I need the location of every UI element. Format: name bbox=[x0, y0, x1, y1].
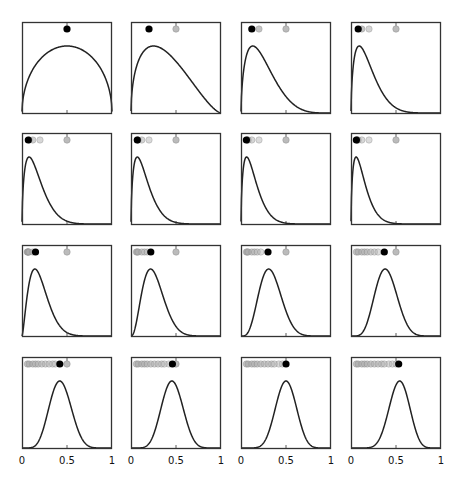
current-estimate-dot bbox=[147, 248, 154, 255]
pdf-curve bbox=[351, 46, 441, 113]
beta-panel-9 bbox=[22, 245, 112, 337]
panel-frame bbox=[352, 134, 441, 225]
history-dot bbox=[37, 137, 43, 143]
x-tick-05-col2: 0.5 bbox=[168, 455, 184, 466]
panel-frame bbox=[23, 134, 112, 225]
reference-dot bbox=[173, 249, 179, 255]
current-estimate-dot bbox=[145, 25, 152, 32]
current-estimate-dot bbox=[248, 25, 255, 32]
history-dot bbox=[258, 249, 264, 255]
panel-frame bbox=[23, 358, 112, 449]
pdf-curve bbox=[351, 269, 441, 336]
reference-dot bbox=[393, 26, 399, 32]
x-tick-0-col4: 0 bbox=[348, 455, 354, 466]
history-dot bbox=[366, 137, 372, 143]
current-estimate-dot bbox=[381, 248, 388, 255]
beta-panel-10 bbox=[131, 245, 221, 337]
pdf-curve bbox=[241, 381, 331, 448]
panel-frame bbox=[242, 358, 331, 449]
reference-dot bbox=[64, 361, 70, 367]
reference-dot bbox=[64, 137, 70, 143]
x-tick-05-col3: 0.5 bbox=[278, 455, 294, 466]
current-estimate-dot bbox=[282, 360, 289, 367]
x-tick-1-col3: 1 bbox=[328, 455, 334, 466]
pdf-curve bbox=[131, 157, 221, 224]
x-tick-1-col4: 1 bbox=[438, 455, 444, 466]
x-tick-0-col1: 0 bbox=[19, 455, 25, 466]
history-dot bbox=[146, 137, 152, 143]
panel-frame bbox=[132, 246, 221, 337]
pdf-curve bbox=[131, 269, 221, 336]
pdf-curve bbox=[22, 46, 112, 112]
reference-dot bbox=[393, 249, 399, 255]
beta-panel-13 bbox=[22, 357, 112, 449]
reference-dot bbox=[393, 137, 399, 143]
pdf-curve bbox=[22, 157, 112, 224]
current-estimate-dot bbox=[56, 360, 63, 367]
beta-panel-6 bbox=[131, 133, 221, 225]
current-estimate-dot bbox=[395, 360, 402, 367]
x-tick-05-col1: 0.5 bbox=[59, 455, 75, 466]
reference-dot bbox=[173, 26, 179, 32]
x-tick-1-col2: 1 bbox=[218, 455, 224, 466]
beta-panel-14 bbox=[131, 357, 221, 449]
panel-frame bbox=[242, 246, 331, 337]
current-estimate-dot bbox=[63, 25, 70, 32]
reference-dot bbox=[64, 249, 70, 255]
pdf-curve bbox=[131, 381, 221, 448]
panel-frame bbox=[23, 246, 112, 337]
pdf-curve bbox=[22, 381, 112, 448]
small-multiples-grid bbox=[0, 0, 464, 486]
beta-panel-15 bbox=[241, 357, 331, 449]
x-tick-05-col4: 0.5 bbox=[388, 455, 404, 466]
beta-panel-3 bbox=[241, 22, 331, 114]
panel-frame bbox=[132, 23, 221, 114]
x-tick-1-col1: 1 bbox=[109, 455, 115, 466]
pdf-curve bbox=[131, 46, 221, 113]
pdf-curve bbox=[351, 157, 441, 224]
beta-panel-12 bbox=[351, 245, 441, 337]
pdf-curve bbox=[241, 269, 331, 336]
x-tick-0-col3: 0 bbox=[238, 455, 244, 466]
beta-panel-2 bbox=[131, 22, 221, 114]
beta-panel-8 bbox=[351, 133, 441, 225]
current-estimate-dot bbox=[355, 25, 362, 32]
pdf-curve bbox=[241, 46, 331, 113]
current-estimate-dot bbox=[25, 136, 32, 143]
current-estimate-dot bbox=[264, 248, 271, 255]
reference-dot bbox=[283, 249, 289, 255]
current-estimate-dot bbox=[169, 360, 176, 367]
current-estimate-dot bbox=[32, 248, 39, 255]
history-dot bbox=[366, 26, 372, 32]
pdf-curve bbox=[241, 157, 331, 224]
panel-frame bbox=[132, 134, 221, 225]
beta-panel-4 bbox=[351, 22, 441, 114]
history-dot bbox=[256, 26, 262, 32]
beta-panel-11 bbox=[241, 245, 331, 337]
panel-frame bbox=[23, 23, 112, 114]
panel-frame bbox=[352, 358, 441, 449]
x-tick-0-col2: 0 bbox=[128, 455, 134, 466]
reference-dot bbox=[283, 137, 289, 143]
panel-frame bbox=[352, 23, 441, 114]
history-dot bbox=[375, 249, 381, 255]
beta-panel-16 bbox=[351, 357, 441, 449]
current-estimate-dot bbox=[243, 136, 250, 143]
pdf-curve bbox=[22, 269, 112, 336]
reference-dot bbox=[283, 26, 289, 32]
beta-panel-1 bbox=[22, 22, 112, 114]
current-estimate-dot bbox=[134, 136, 141, 143]
current-estimate-dot bbox=[353, 136, 360, 143]
beta-panel-7 bbox=[241, 133, 331, 225]
pdf-curve bbox=[351, 381, 441, 448]
panel-frame bbox=[242, 23, 331, 114]
panel-frame bbox=[132, 358, 221, 449]
beta-panel-5 bbox=[22, 133, 112, 225]
reference-dot bbox=[173, 137, 179, 143]
history-dot bbox=[256, 137, 262, 143]
